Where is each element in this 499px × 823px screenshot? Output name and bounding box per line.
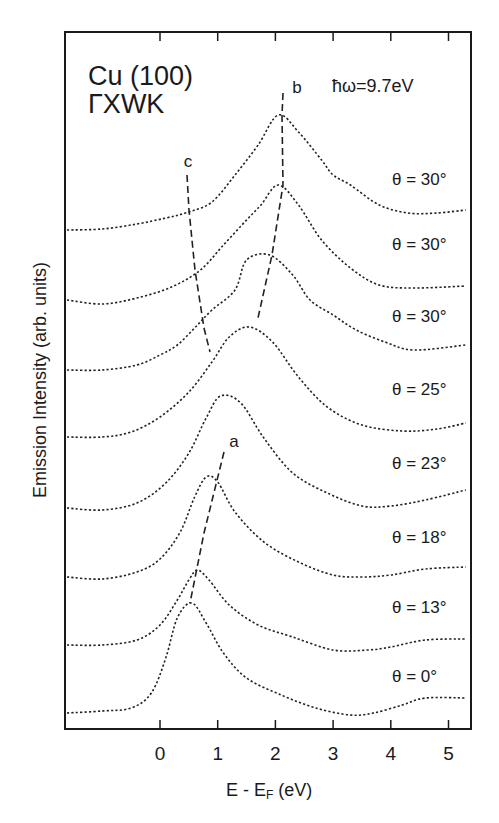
curve-label: θ = 18° bbox=[392, 528, 447, 547]
x-tick-label: 4 bbox=[386, 743, 397, 764]
curve-label: θ = 23° bbox=[392, 454, 447, 473]
arpes-spectra-chart: 012345 abc θ = 30°θ = 30°θ = 30°θ = 25°θ… bbox=[0, 0, 499, 823]
curve-label: θ = 25° bbox=[392, 380, 447, 399]
x-axis-label-unit: (eV) bbox=[273, 780, 312, 800]
x-tick-label: 1 bbox=[212, 743, 223, 764]
x-tick-label: 0 bbox=[155, 743, 166, 764]
guide-label-a: a bbox=[229, 432, 239, 451]
guide-label-b: b bbox=[292, 78, 301, 97]
guide-label-c: c bbox=[184, 152, 193, 171]
y-axis-label: Emission Intensity (arb. units) bbox=[30, 262, 50, 498]
chart-title: Cu (100) bbox=[88, 61, 193, 91]
x-tick-label: 5 bbox=[443, 743, 454, 764]
x-axis-label-subscript: F bbox=[266, 788, 273, 802]
x-tick-label: 3 bbox=[328, 743, 339, 764]
curve-label: θ = 13° bbox=[392, 598, 447, 617]
photon-energy-annotation: ħω=9.7eV bbox=[332, 76, 414, 96]
x-tick-label: 2 bbox=[270, 743, 281, 764]
curve-label: θ = 30° bbox=[392, 235, 447, 254]
curve-label: θ = 0° bbox=[392, 667, 437, 686]
curve-label: θ = 30° bbox=[392, 170, 447, 189]
chart-subtitle: ΓXWK bbox=[88, 89, 164, 119]
x-axis-label-main: E - E bbox=[226, 780, 266, 800]
chart-background bbox=[0, 0, 499, 823]
curve-label: θ = 30° bbox=[392, 307, 447, 326]
